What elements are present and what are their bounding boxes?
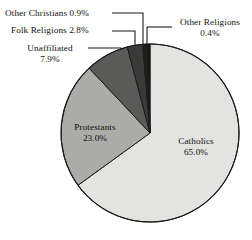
slice-label-protestants: Protestants 23.0% bbox=[63, 122, 127, 143]
leader-line-other-christians bbox=[112, 13, 143, 46]
slice-label-catholics-name: Catholics bbox=[168, 136, 224, 147]
slice-label-folk-religions: Folk Religions 2.8% bbox=[11, 25, 89, 36]
slice-label-other-religions: Other Religions 0.4% bbox=[172, 17, 248, 38]
slice-label-protestants-value: 23.0% bbox=[63, 133, 127, 144]
slice-label-other-religions-value: 0.4% bbox=[172, 28, 248, 39]
pie-chart-figure: Other Christians 0.9% Folk Religions 2.8… bbox=[0, 0, 252, 240]
slice-label-catholics: Catholics 65.0% bbox=[168, 136, 224, 157]
slice-label-unaffiliated-name: Unaffiliated bbox=[16, 43, 84, 54]
slice-label-other-christians: Other Christians 0.9% bbox=[5, 8, 89, 19]
slice-label-other-christians-text: Other Christians 0.9% bbox=[5, 8, 89, 18]
slice-label-protestants-name: Protestants bbox=[63, 122, 127, 133]
slice-label-unaffiliated: Unaffiliated 7.9% bbox=[16, 43, 84, 64]
slice-label-catholics-value: 65.0% bbox=[168, 147, 224, 158]
slice-label-unaffiliated-value: 7.9% bbox=[16, 54, 84, 65]
slice-label-folk-religions-text: Folk Religions 2.8% bbox=[11, 25, 89, 35]
slice-label-other-religions-name: Other Religions bbox=[172, 17, 248, 28]
